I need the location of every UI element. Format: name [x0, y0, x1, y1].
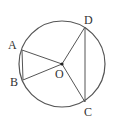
label-b: B — [10, 75, 18, 89]
label-c: C — [84, 105, 92, 119]
label-o: O — [55, 67, 64, 81]
circle-diagram: A B C D O — [0, 0, 113, 119]
radius-oc — [62, 64, 85, 102]
label-d: D — [84, 13, 93, 27]
center-point — [60, 62, 63, 65]
chord-ab — [22, 50, 23, 80]
label-a: A — [8, 38, 17, 52]
radius-od — [62, 27, 85, 64]
radius-oa — [22, 50, 62, 64]
